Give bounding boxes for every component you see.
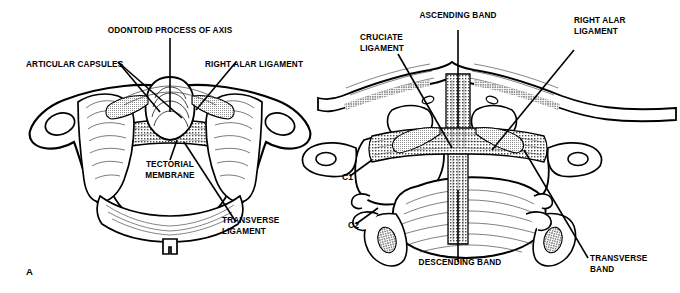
anatomical-figure: ODONTOID PROCESS OF AXIS ARTICULAR CAPSU…: [0, 0, 680, 293]
c2-axis-body: [393, 177, 546, 258]
label-transverse-band: TRANSVERSE BAND: [590, 254, 676, 275]
label-right-alar-ligament-b: RIGHT ALAR LIGAMENT: [574, 16, 670, 37]
label-odontoid-process-of-axis: ODONTOID PROCESS OF AXIS: [84, 26, 256, 37]
illustration-canvas: [0, 0, 680, 293]
label-descending-band: DESCENDING BAND: [404, 258, 516, 269]
c1-posterior-hook: [352, 194, 370, 209]
c1-left-transverse-foramen: [316, 153, 336, 166]
label-right-alar-ligament: RIGHT ALAR LIGAMENT: [205, 60, 335, 71]
label-cruciate-ligament: CRUCIATE LIGAMENT: [360, 33, 450, 54]
label-transverse-ligament: TRANSVERSE LIGAMENT: [222, 216, 322, 237]
left-hypoglossal-canal: [421, 95, 435, 105]
label-tectorial-membrane: TECTORIAL MEMBRANE: [118, 160, 222, 181]
label-ascending-band: ASCENDING BAND: [398, 11, 518, 22]
posterior-tubercle: [163, 239, 177, 254]
label-c2: C2: [348, 220, 359, 231]
c1-right-transverse-foramen: [568, 153, 588, 166]
panel-b-drawing: [302, 30, 676, 266]
label-c1: C1: [342, 172, 353, 183]
right-hypoglossal-canal: [485, 95, 499, 105]
panel-letter-a: A: [26, 266, 33, 277]
label-articular-capsules: ARTICULAR CAPSULES: [26, 60, 146, 71]
